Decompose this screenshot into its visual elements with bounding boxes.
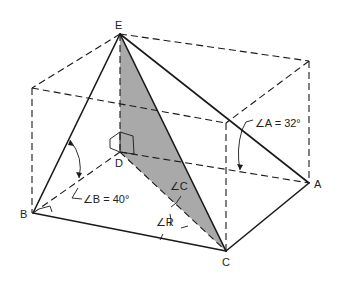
label-point-b: B xyxy=(20,208,27,220)
angle-b-arc xyxy=(68,140,82,199)
label-angle-a: ∠A = 32° xyxy=(255,117,301,129)
label-angle-r: ∠R xyxy=(156,216,174,228)
label-point-a: A xyxy=(314,178,322,190)
label-point-d: D xyxy=(115,157,123,169)
label-point-e: E xyxy=(115,19,122,31)
label-point-c: C xyxy=(222,256,230,268)
label-angle-c: ∠C xyxy=(170,180,188,192)
label-angle-b: ∠B = 40° xyxy=(83,193,129,205)
pyramid-diagram: E D B C A ∠A = 32° ∠B = 40° ∠C ∠R xyxy=(0,0,337,281)
angle-r-mark xyxy=(160,226,188,240)
right-angle-mark-b xyxy=(39,206,52,212)
